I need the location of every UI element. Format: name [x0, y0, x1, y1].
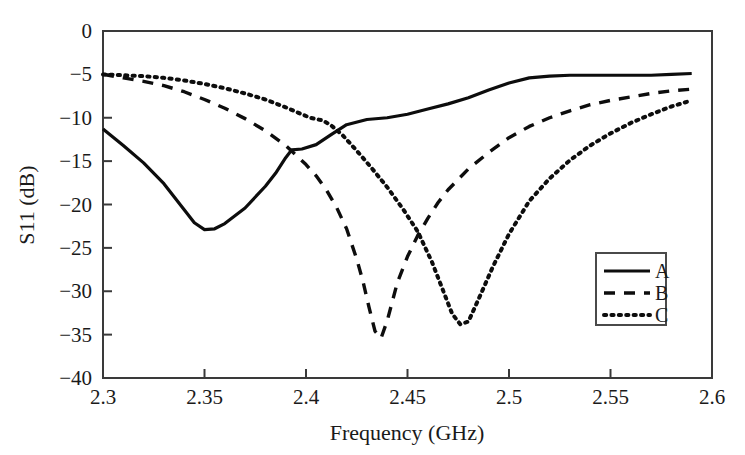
x-tick-label: 2.35 — [186, 385, 223, 409]
x-axis-ticks — [103, 369, 712, 378]
series-line-a — [103, 74, 692, 230]
legend-label-a: A — [655, 260, 670, 282]
y-axis-ticks — [103, 31, 112, 378]
x-tick-label: 2.3 — [90, 385, 116, 409]
x-tick-label: 2.5 — [496, 385, 522, 409]
y-tick-label: −10 — [59, 106, 92, 130]
y-tick-label: −5 — [70, 62, 92, 86]
y-tick-label: −40 — [59, 366, 92, 390]
y-tick-label: −30 — [59, 279, 92, 303]
x-tick-label: 2.4 — [293, 385, 320, 409]
x-axis-title: Frequency (GHz) — [330, 420, 485, 445]
y-tick-label: −20 — [59, 193, 92, 217]
chart-figure: 0−5−10−15−20−25−30−35−40 2.32.352.42.452… — [0, 0, 745, 455]
legend-label-b: B — [655, 282, 668, 304]
y-axis-title: S11 (dB) — [14, 165, 39, 244]
y-tick-label: 0 — [82, 19, 93, 43]
x-tick-label: 2.45 — [389, 385, 426, 409]
x-axis-tick-labels: 2.32.352.42.452.52.552.6 — [90, 385, 725, 409]
y-tick-label: −15 — [59, 149, 92, 173]
y-tick-label: −25 — [59, 236, 92, 260]
s11-frequency-line-chart: 0−5−10−15−20−25−30−35−40 2.32.352.42.452… — [0, 0, 745, 455]
legend-label-c: C — [655, 304, 668, 326]
y-tick-label: −35 — [59, 323, 92, 347]
y-axis-tick-labels: 0−5−10−15−20−25−30−35−40 — [59, 19, 92, 390]
x-tick-label: 2.55 — [592, 385, 629, 409]
legend: ABC — [596, 253, 670, 326]
x-tick-label: 2.6 — [699, 385, 725, 409]
